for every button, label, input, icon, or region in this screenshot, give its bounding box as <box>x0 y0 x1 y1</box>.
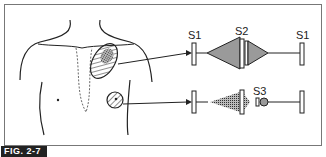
bottom-phonocardiogram <box>192 90 304 114</box>
upper-pointer-line <box>118 53 188 64</box>
chest-diagram <box>0 0 326 157</box>
s3-label: S3 <box>253 86 266 97</box>
s1-label-top-left: S1 <box>188 30 201 41</box>
torso-outline <box>20 20 152 135</box>
figure-caption-label: FIG. 2-7 <box>1 146 47 157</box>
top-phonocardiogram <box>192 37 304 69</box>
sternum-outline <box>76 48 92 112</box>
lower-pointer-line <box>123 102 188 104</box>
s2-label: S2 <box>235 26 248 37</box>
nipple-marker <box>57 99 59 101</box>
s1-label-top-right: S1 <box>296 30 309 41</box>
apex-auscultation-area <box>107 92 123 108</box>
